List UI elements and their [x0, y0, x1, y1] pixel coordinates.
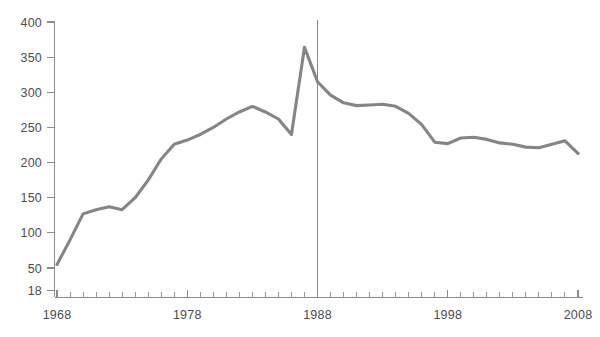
y-tick-label-group: 1850100150200250300350400 — [21, 16, 42, 298]
y-tick-label-350: 350 — [21, 51, 42, 65]
x-tick-label-2008: 2008 — [564, 308, 593, 322]
y-tick-group — [47, 22, 55, 290]
y-axis: 1850100150200250300350400 — [21, 16, 55, 298]
y-tick-label-18: 18 — [28, 284, 42, 298]
x-tick-label-1978: 1978 — [173, 308, 202, 322]
y-tick-label-200: 200 — [21, 156, 42, 170]
y-tick-label-150: 150 — [21, 191, 42, 205]
x-tick-label-group: 19681978198819982008 — [43, 308, 593, 322]
line-chart: 1850100150200250300350400 19681978198819… — [0, 0, 600, 337]
y-tick-label-400: 400 — [21, 16, 42, 30]
x-tick-label-1988: 1988 — [303, 308, 332, 322]
y-tick-label-250: 250 — [21, 121, 42, 135]
y-tick-label-300: 300 — [21, 86, 42, 100]
x-tick-label-1968: 1968 — [43, 308, 72, 322]
y-tick-label-50: 50 — [28, 262, 42, 276]
x-tick-label-1998: 1998 — [433, 308, 462, 322]
chart-page: 1850100150200250300350400 19681978198819… — [0, 0, 600, 337]
y-tick-label-100: 100 — [21, 226, 42, 240]
